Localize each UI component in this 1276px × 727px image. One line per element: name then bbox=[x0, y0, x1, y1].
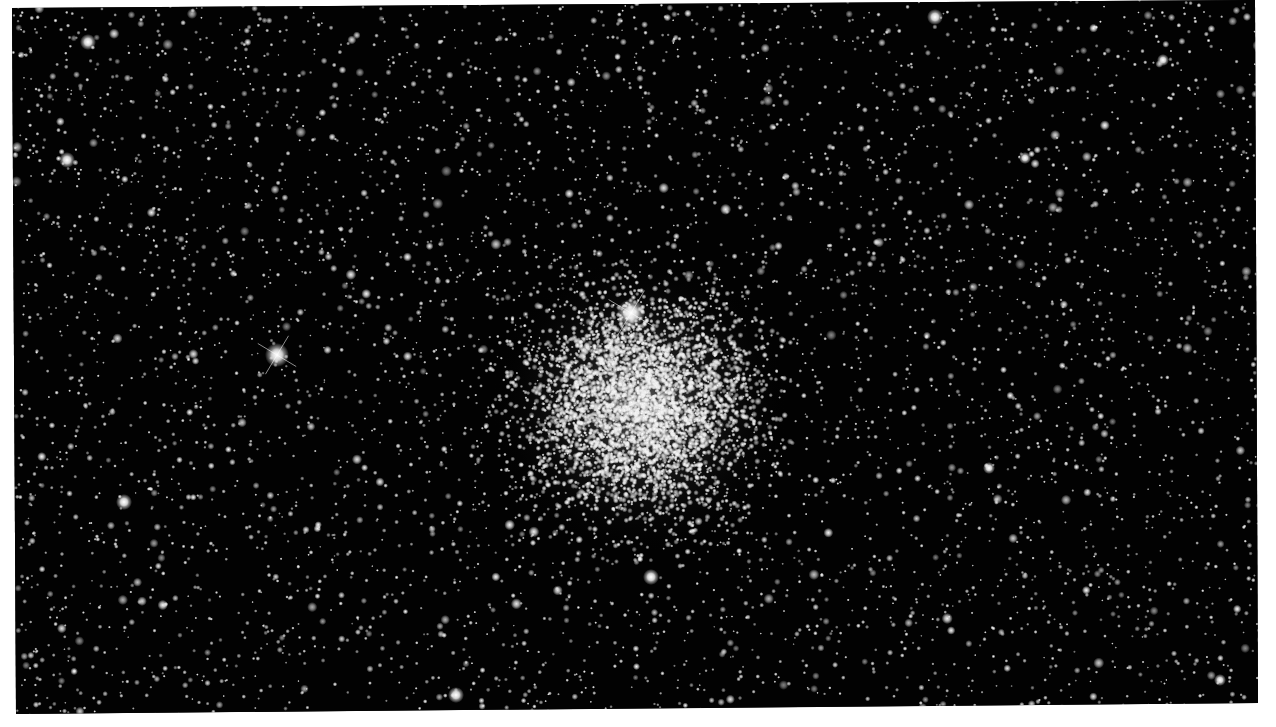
star-field-image bbox=[0, 0, 1276, 727]
star-field-canvas bbox=[0, 0, 1276, 727]
